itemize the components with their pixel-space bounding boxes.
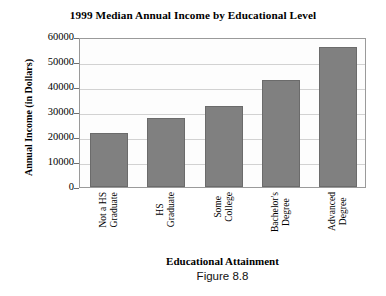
x-tick-label-text: Not a HSGraduate xyxy=(97,192,118,228)
x-tick-label: SomeCollege xyxy=(195,192,251,254)
x-tick-label: Not a HSGraduate xyxy=(80,192,136,254)
y-tick-label: 20000 xyxy=(14,131,74,142)
bar xyxy=(262,80,300,188)
figure-caption: Figure 8.8 xyxy=(79,270,366,282)
y-tick-label: 50000 xyxy=(14,56,74,67)
bar xyxy=(319,47,357,187)
bar-chart-figure: 1999 Median Annual Income by Educational… xyxy=(0,0,386,296)
x-tick-label: HSGraduate xyxy=(137,192,193,254)
x-axis-title: Educational Attainment xyxy=(79,255,366,267)
y-tick-label: 0 xyxy=(14,181,74,192)
y-tick-label: 40000 xyxy=(14,81,74,92)
x-tick-label: AdvancedDegree xyxy=(309,192,365,254)
y-tick-label: 30000 xyxy=(14,106,74,117)
x-tick-label-text: Bachelor'sDegree xyxy=(269,192,290,232)
x-tick-label-text: AdvancedDegree xyxy=(327,192,348,231)
y-tick-label: 60000 xyxy=(14,31,74,42)
x-tick-label-text: HSGraduate xyxy=(155,192,176,227)
bar xyxy=(90,133,128,187)
chart-title: 1999 Median Annual Income by Educational… xyxy=(0,9,386,21)
x-tick-label-text: SomeCollege xyxy=(212,192,233,222)
plot-area xyxy=(79,38,366,188)
y-tick-mark xyxy=(74,188,79,189)
bar xyxy=(205,106,243,187)
y-tick-label: 10000 xyxy=(14,156,74,167)
bar xyxy=(147,118,185,188)
x-tick-label: Bachelor'sDegree xyxy=(252,192,308,254)
